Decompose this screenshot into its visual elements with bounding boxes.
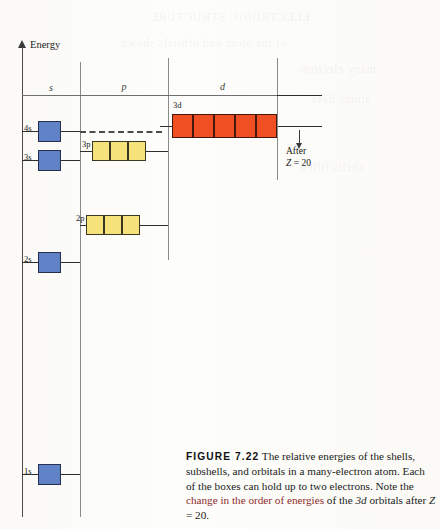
orbital-box xyxy=(104,215,122,235)
caption-text-3: orbitals after xyxy=(367,494,429,506)
after-z-label: After Z = 20 xyxy=(286,145,311,169)
p-column-header: p xyxy=(80,81,168,92)
after-label-line1: After xyxy=(286,145,311,157)
dashed-connector-4s-3d xyxy=(80,131,162,133)
orbital-label-3d-text: 3d xyxy=(173,100,182,110)
level-line-2s-left xyxy=(22,262,38,263)
after-label-line2: Z = 20 xyxy=(286,157,311,169)
upper-right-rule xyxy=(277,95,322,96)
orbital-boxes-1s xyxy=(38,464,61,485)
orbital-boxes-4s xyxy=(38,121,61,142)
orbital-box xyxy=(92,141,110,161)
orbital-boxes-3d xyxy=(172,114,277,138)
orbital-boxes-3s xyxy=(38,150,61,171)
energy-axis-line xyxy=(22,47,23,517)
level-line-1s-left xyxy=(22,474,38,475)
level-line-3s-right xyxy=(61,160,80,161)
orbital-label-3p: 3p xyxy=(82,139,91,149)
orbital-label-3p-text: 3p xyxy=(82,139,91,149)
orbital-box xyxy=(38,150,61,171)
d-column-header: d xyxy=(168,81,277,92)
level-line-1s-right xyxy=(61,474,80,475)
level-line-3s-left xyxy=(22,160,38,161)
level-line-2p-right xyxy=(140,225,168,226)
orbital-box xyxy=(38,121,61,142)
level-line-2s-right xyxy=(61,262,80,263)
after-label-eq: = 20 xyxy=(294,158,311,168)
energy-axis-label: Energy xyxy=(30,39,60,50)
orbital-boxes-2p xyxy=(86,215,140,235)
orbital-box xyxy=(235,114,256,138)
caption-orbital-3d: 3d xyxy=(355,494,366,506)
orbital-label-2p: 2p xyxy=(76,213,85,223)
orbital-box xyxy=(128,141,146,161)
orbital-box xyxy=(193,114,214,138)
caption-z-var: Z xyxy=(429,494,435,506)
orbital-box xyxy=(214,114,235,138)
orbital-box xyxy=(86,215,104,235)
caption-text-2: of the xyxy=(324,494,355,506)
orbital-box xyxy=(110,141,128,161)
orbital-box xyxy=(38,252,61,273)
orbital-boxes-2s xyxy=(38,252,61,273)
orbital-boxes-3p xyxy=(92,141,146,161)
orbital-label-3d: 3d xyxy=(173,100,182,110)
caption-text-change: change in the order of energies xyxy=(186,494,324,506)
after-z-divider xyxy=(277,126,278,180)
orbital-box xyxy=(256,114,277,138)
level-line-3p-right xyxy=(146,151,168,152)
orbital-box xyxy=(122,215,140,235)
caption-text-4: = 20. xyxy=(186,509,209,521)
figure-caption: FIGURE 7.22 The relative energies of the… xyxy=(186,449,436,522)
level-line-4s-right xyxy=(61,131,80,132)
level-line-3p-left xyxy=(80,151,92,152)
orbital-box xyxy=(38,464,61,485)
level-line-4s-left xyxy=(22,131,38,132)
s-column-header: s xyxy=(22,82,80,93)
after-label-z: Z xyxy=(286,158,291,168)
level-line-3d-right xyxy=(277,126,322,127)
orbital-label-2p-text: 2p xyxy=(76,213,85,223)
s-column-right-boundary xyxy=(80,260,81,517)
figure-number: FIGURE 7.22 xyxy=(186,451,259,462)
orbital-box xyxy=(172,114,193,138)
